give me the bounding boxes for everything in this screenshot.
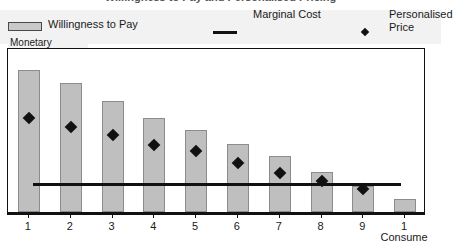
x-tick-1 [28,213,29,218]
x-tick-label-9: 9 [359,220,365,232]
x-tick-5 [195,213,196,218]
y-axis-label-clip: Monetary [8,38,88,48]
legend-label-willingness-to-pay: Willingness to Pay [48,18,138,30]
x-tick-label-4: 4 [150,220,156,232]
line-swatch-icon [213,31,237,34]
x-tick-label-7: 7 [276,220,282,232]
chart-title: Willingness to Pay and Personalised Pric… [105,0,337,3]
plot-area [7,48,425,213]
x-tick-7 [279,213,280,218]
bar-consumer-5 [185,130,207,213]
bar-consumer-10 [394,199,416,212]
x-tick-8 [321,213,322,218]
x-tick-2 [70,213,71,218]
bar-consumer-3 [102,101,124,212]
x-axis-label: Consume [381,231,428,243]
plot-inner [8,49,424,212]
x-tick-label-6: 6 [234,220,240,232]
x-tick-3 [112,213,113,218]
diamond-swatch-icon [361,28,369,36]
legend-label-personalised-price-line2: Price [389,21,453,34]
x-tick-10 [404,213,405,218]
legend-label-personalised-price: Personalised Price [389,8,453,34]
x-tick-label-3: 3 [108,220,114,232]
chart-title-strip: Willingness to Pay and Personalised Pric… [0,0,441,10]
legend-label-marginal-cost: Marginal Cost [253,8,321,20]
marginal-cost-line [33,183,401,186]
bar-consumer-2 [60,83,82,212]
bar-consumer-4 [143,118,165,212]
bar-consumer-6 [227,144,249,212]
x-tick-6 [237,213,238,218]
x-tick-label-2: 2 [67,220,73,232]
x-tick-4 [153,213,154,218]
bar-consumer-1 [18,70,40,212]
y-axis-label: Monetary [10,38,52,48]
bar-swatch-icon [8,22,42,31]
x-tick-9 [362,213,363,218]
legend-label-personalised-price-line1: Personalised [389,8,453,21]
x-tick-label-8: 8 [317,220,323,232]
x-tick-label-5: 5 [192,220,198,232]
x-tick-label-1: 1 [25,220,31,232]
